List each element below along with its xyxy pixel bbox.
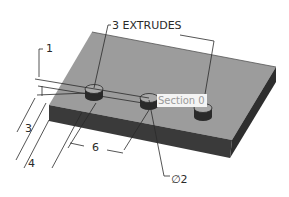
drawing-canvas: 3 EXTRUDES 1 3 4 6 Section 0 ∅2: [0, 0, 289, 197]
section-label: Section 0: [158, 95, 205, 106]
diameter-label: ∅2: [171, 173, 188, 186]
dimension-6: 6: [92, 141, 99, 154]
dimension-3: 3: [25, 122, 32, 135]
extrudes-callout: 3 EXTRUDES: [112, 19, 182, 32]
dimension-1: 1: [46, 42, 53, 55]
dimension-4: 4: [28, 157, 35, 170]
